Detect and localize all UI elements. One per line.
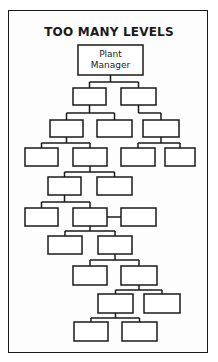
org-box xyxy=(121,266,157,285)
org-box xyxy=(50,120,83,137)
org-box xyxy=(73,266,107,285)
org-box xyxy=(73,148,107,166)
org-box xyxy=(121,148,155,166)
org-box xyxy=(74,322,108,341)
org-box xyxy=(98,236,132,254)
org-box xyxy=(97,177,132,195)
org-box xyxy=(48,177,81,195)
org-chart: PlantManager xyxy=(0,0,218,362)
org-box xyxy=(165,148,195,166)
org-box xyxy=(97,120,132,137)
box-label: Manager xyxy=(91,60,131,70)
box-label: Plant xyxy=(99,49,122,59)
org-box xyxy=(121,88,156,105)
org-box xyxy=(98,294,133,313)
org-box xyxy=(143,120,179,137)
org-box xyxy=(73,208,107,226)
org-box xyxy=(48,236,82,254)
org-box xyxy=(25,148,58,166)
org-box xyxy=(73,88,106,105)
org-box xyxy=(25,208,58,226)
org-box xyxy=(121,208,156,226)
org-box xyxy=(144,294,180,313)
org-box xyxy=(122,322,157,341)
